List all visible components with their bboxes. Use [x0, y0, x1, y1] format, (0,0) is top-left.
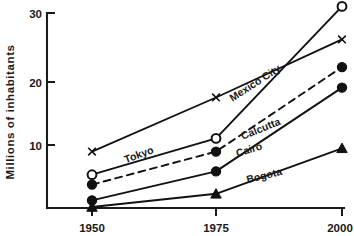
- marker-bogota: [337, 143, 347, 152]
- marker-mexico-city: [88, 170, 97, 179]
- x-tick-label-2000: 2000: [327, 222, 353, 234]
- marker-mexico-city: [338, 2, 347, 11]
- y-tick-label-20: 20: [29, 77, 42, 89]
- marker-cairo: [211, 167, 220, 176]
- series-label-cairo: Cairo: [234, 140, 263, 159]
- marker-calcutta: [211, 147, 220, 156]
- x-tick-label-1950: 1950: [79, 222, 105, 234]
- y-tick-label-30: 30: [29, 8, 42, 20]
- marker-calcutta: [337, 63, 346, 72]
- series-layer: [87, 2, 347, 211]
- population-growth-chart: Millions of inhabitants 30 20 10 1950 19…: [0, 0, 354, 236]
- series-label-calcutta: Calcutta: [239, 115, 282, 142]
- marker-tokyo: [88, 148, 96, 156]
- marker-tokyo: [212, 94, 220, 102]
- x-tick-label-1975: 1975: [203, 222, 229, 234]
- marker-calcutta: [87, 180, 96, 189]
- marker-tokyo: [338, 36, 346, 44]
- marker-cairo: [337, 83, 346, 92]
- y-axis-label: Millions of inhabitants: [4, 44, 16, 179]
- marker-mexico-city: [212, 134, 221, 143]
- series-label-bogota: Bogota: [245, 165, 283, 185]
- series-line-cairo: [92, 88, 342, 201]
- y-tick-label-10: 10: [29, 140, 42, 152]
- chart-canvas: Millions of inhabitants 30 20 10 1950 19…: [0, 0, 354, 236]
